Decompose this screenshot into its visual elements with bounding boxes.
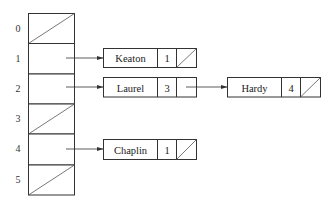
index-label-3: 3 <box>16 113 21 124</box>
node-name: Laurel <box>117 83 144 94</box>
index-label-4: 4 <box>16 143 21 154</box>
slot-1 <box>29 44 75 75</box>
index-label-2: 2 <box>16 83 21 94</box>
index-labels: 0 1 2 3 4 5 <box>16 23 21 185</box>
list-node-hardy: Hardy 4 <box>228 78 321 98</box>
list-node-chaplin: Chaplin 1 <box>104 140 197 160</box>
slot-4 <box>29 134 75 165</box>
index-label-5: 5 <box>16 174 21 185</box>
hash-table-array <box>29 14 75 196</box>
index-label-1: 1 <box>16 53 21 64</box>
node-count: 4 <box>288 83 294 94</box>
node-name: Hardy <box>241 83 268 94</box>
node-name: Keaton <box>115 53 146 64</box>
list-node-keaton: Keaton 1 <box>104 49 197 68</box>
index-label-0: 0 <box>16 23 21 34</box>
node-count: 1 <box>164 53 169 64</box>
slot-2 <box>29 74 75 104</box>
node-count: 3 <box>164 83 169 94</box>
node-count: 1 <box>164 145 169 156</box>
node-name: Chaplin <box>114 145 148 156</box>
hash-table-diagram: 0 1 2 3 4 5 Keaton 1 Laurel 3 <box>0 0 332 207</box>
list-node-laurel: Laurel 3 <box>104 78 197 98</box>
